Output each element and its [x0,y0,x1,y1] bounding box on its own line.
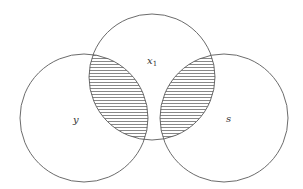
set-label-y: y [72,114,79,125]
set-label-s: s [226,113,231,124]
shaded-regions [20,54,288,182]
set-label-x1: x1 [147,55,157,68]
shaded-region-x1-y [20,54,148,182]
venn-diagram-canvas: x1 y s [0,0,303,189]
venn-diagram: x1 y s [0,0,303,189]
shaded-region-x1-s [160,54,288,182]
